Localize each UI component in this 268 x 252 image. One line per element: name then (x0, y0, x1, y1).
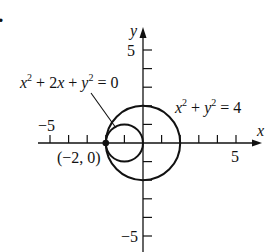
y-axis-arrow-icon (140, 27, 147, 38)
equation-small-circle: x2 + 2x + y2 = 0 (19, 72, 118, 92)
x-tick-label-neg5: −5 (38, 117, 55, 134)
problem-marker: . (0, 2, 4, 27)
point-neg2-0 (103, 140, 110, 147)
coordinate-plane: . y x 5 −5 −5 5 (−2, 0) (0, 0, 268, 252)
equation-large-circle: x2 + y2 = 4 (174, 97, 241, 117)
point-label: (−2, 0) (57, 149, 101, 167)
x-axis-arrow-icon (252, 140, 262, 147)
x-axis-label: x (256, 122, 264, 139)
leader-line (91, 93, 116, 128)
y-axis-label: y (128, 22, 138, 40)
x-tick-label-5: 5 (231, 148, 239, 165)
diagram: . y x 5 −5 −5 5 (−2, 0) (0, 0, 268, 252)
y-tick-label-neg5: −5 (121, 228, 138, 245)
y-tick-label-5: 5 (127, 42, 135, 59)
